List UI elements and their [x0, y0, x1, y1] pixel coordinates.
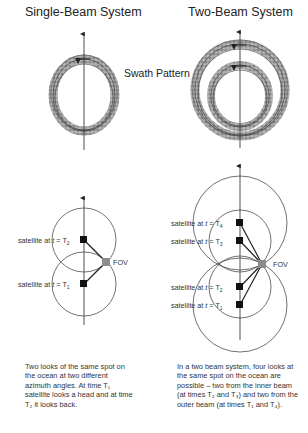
two-label-t2: satellite at t = T2: [171, 283, 223, 293]
two-label-t1: satellite at t = T1: [171, 301, 223, 311]
fov-marker: [258, 260, 266, 268]
satellite-t2-marker: [80, 236, 87, 243]
single-label-t1: satellite at t = T1: [18, 280, 70, 290]
two-label-t3: satellite at t = T3: [171, 237, 223, 247]
single-beam-caption: Two looks of the same spot on the ocean …: [25, 362, 135, 409]
satellite-t1-marker: [80, 280, 87, 287]
satellite-t3-marker: [236, 237, 243, 244]
two-beam-geometry: [193, 166, 287, 352]
satellite-t4-marker: [236, 219, 243, 226]
two-beam-caption: In a two beam system, four looks at the …: [177, 362, 302, 409]
two-label-t4: satellite at t = T4: [171, 219, 223, 229]
two-fov-label: FOV: [273, 260, 288, 269]
fov-marker: [102, 258, 110, 266]
satellite-t1-marker: [236, 301, 243, 308]
single-beam-geometry: [52, 198, 116, 325]
single-fov-label: FOV: [113, 258, 128, 267]
single-label-t2: satellite at t = T2: [18, 236, 70, 246]
satellite-t2-marker: [236, 283, 243, 290]
